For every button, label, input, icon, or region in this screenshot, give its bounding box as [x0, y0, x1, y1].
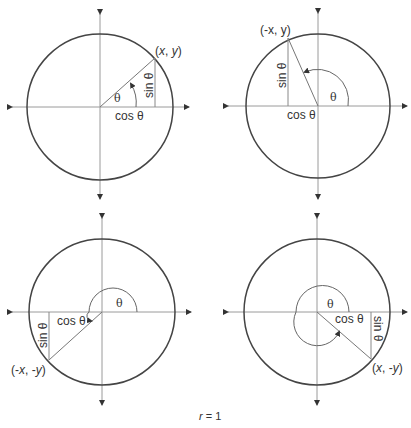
cos-label: cos θ [115, 109, 144, 123]
cos-label: cos θ [57, 314, 86, 328]
panel-quadrant-3: θ cos θ sin θ (-x, -y) [11, 218, 191, 405]
point-label: (-x, y) [260, 23, 291, 37]
cos-label: cos θ [335, 312, 364, 326]
panel-quadrant-2: θ cos θ sin θ (-x, y) [228, 13, 407, 199]
theta-label: θ [330, 91, 337, 104]
point-label: (x, y) [155, 44, 182, 58]
radius-ray [288, 38, 318, 106]
panel-quadrant-4: θ cos θ sin θ (x, -y) [228, 218, 407, 405]
theta-label: θ [116, 297, 123, 310]
angle-arc [131, 84, 136, 107]
radius-caption: r = 1 [199, 410, 221, 422]
unit-circle-diagram: θ cos θ sin θ (x, y) θ cos θ sin θ (-x, … [0, 0, 411, 428]
radius-value: = 1 [203, 410, 222, 422]
point-label: (-x, -y) [11, 363, 46, 377]
sin-label: sin θ [371, 316, 385, 342]
sin-label: sin θ [142, 72, 156, 98]
theta-label: θ [114, 92, 121, 105]
panel-quadrant-1: θ cos θ sin θ (x, y) [12, 14, 189, 199]
angle-arc [305, 69, 349, 106]
angle-arc [87, 288, 137, 321]
point-label: (x, -y) [372, 361, 403, 375]
sin-label: sin θ [275, 62, 289, 88]
cos-label: cos θ [287, 108, 316, 122]
theta-label: θ [327, 298, 334, 311]
sin-label: sin θ [36, 322, 50, 348]
